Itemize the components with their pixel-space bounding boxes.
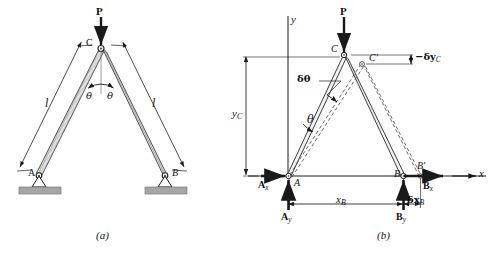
panel-b-joint-a-label: A xyxy=(294,178,300,188)
panel-a-joint-c-label: C xyxy=(86,38,93,48)
virtual-dyc-subscript: C xyxy=(436,56,441,64)
pin-support-b xyxy=(145,173,187,194)
reaction-bx-symbol: B xyxy=(423,180,430,191)
virtual-theta-label: θ xyxy=(307,114,314,125)
dimension-arrow-icon xyxy=(17,43,92,172)
pin-support-a xyxy=(19,173,61,194)
reaction-ax-subscript: x xyxy=(265,184,268,192)
virtual-dxb-label: δxB xyxy=(407,195,424,207)
joint-a-pin-b xyxy=(286,173,291,178)
panel-b-load-label: P xyxy=(340,6,347,17)
panel-b-group xyxy=(243,16,486,210)
panel-a-angle-left-label: θ xyxy=(86,91,92,101)
dimension-arrow-icon xyxy=(289,178,404,208)
dimension-xb-label: xB xyxy=(336,194,346,207)
member-ac-b xyxy=(287,56,346,177)
panel-a-load-label: P xyxy=(96,6,103,17)
panel-b-caption: (b) xyxy=(377,230,390,241)
virtual-dxb-subscript: B xyxy=(420,199,424,207)
joint-c-pin-b xyxy=(341,52,346,57)
panel-b-joint-b-label: B xyxy=(394,169,400,179)
virtual-dxb-symbol: δx xyxy=(407,194,420,205)
dimension-xb-subscript: B xyxy=(341,198,346,207)
reaction-ay-subscript: y xyxy=(288,216,291,224)
reaction-by-symbol: B xyxy=(396,211,403,222)
panel-b-joint-b-displaced-label: B' xyxy=(417,161,425,171)
panel-a-caption: (a) xyxy=(96,230,109,241)
joint-c-pin xyxy=(98,46,104,52)
joint-c-displaced-pin xyxy=(360,62,365,67)
panel-a-joint-b-label: B xyxy=(172,168,178,178)
truss-virtual-work-figure xyxy=(0,0,500,259)
reaction-by-subscript: y xyxy=(403,216,406,224)
reaction-by-label: By xyxy=(396,212,406,224)
virtual-dyc-symbol: −δy xyxy=(415,51,436,62)
dimension-yc-label: yC xyxy=(232,108,242,121)
reaction-bx-subscript: x xyxy=(430,185,433,193)
panel-b-x-axis-label: x xyxy=(479,168,484,179)
panel-b-joint-c-label: C xyxy=(331,44,338,54)
panel-b-y-axis-label: y xyxy=(291,14,296,25)
panel-a-length-right-label: l xyxy=(152,97,155,109)
reaction-bx-label: Bx xyxy=(423,181,433,193)
dimension-yc-subscript: C xyxy=(237,112,242,121)
reaction-ay-label: Ay xyxy=(281,212,291,224)
panel-a-joint-a-label: A xyxy=(28,168,35,178)
dimension-arrow-icon xyxy=(243,57,340,176)
panel-b-joint-c-displaced-label: C' xyxy=(369,53,378,63)
panel-a-group xyxy=(17,17,187,194)
virtual-dyc-label: −δyC xyxy=(415,52,441,64)
panel-a-angle-right-label: θ xyxy=(107,91,113,101)
virtual-dtheta-label: δθ xyxy=(297,74,310,84)
reaction-ax-label: Ax xyxy=(258,180,268,192)
panel-a-length-left-label: l xyxy=(45,97,48,109)
dimension-arrow-icon xyxy=(111,43,187,172)
